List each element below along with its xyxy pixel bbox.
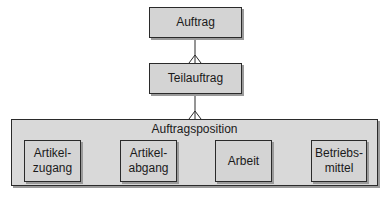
entity-teilauftrag: Teilauftrag bbox=[149, 63, 242, 94]
entity-label: Betriebs- mittel bbox=[315, 146, 363, 176]
entity-artikelzugang: Artikel- zugang bbox=[24, 140, 81, 182]
entity-label: Teilauftrag bbox=[168, 71, 223, 86]
entity-label: Artikel- abgang bbox=[128, 146, 168, 176]
entity-label: Arbeit bbox=[228, 154, 259, 169]
entity-label: Auftrag bbox=[176, 15, 215, 30]
entity-label: Artikel- zugang bbox=[33, 146, 72, 176]
container-label: Auftragsposition bbox=[12, 122, 377, 136]
entity-auftragsposition: Auftragsposition Artikel- zugang Artikel… bbox=[11, 119, 378, 186]
entity-auftrag: Auftrag bbox=[149, 7, 242, 38]
entity-arbeit: Arbeit bbox=[215, 140, 272, 182]
entity-artikelabgang: Artikel- abgang bbox=[120, 140, 177, 182]
entity-betriebsmittel: Betriebs- mittel bbox=[311, 140, 367, 182]
